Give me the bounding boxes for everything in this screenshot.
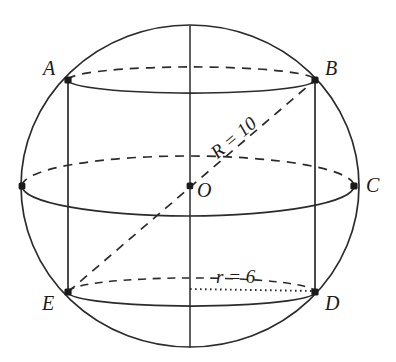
equator-back-arc bbox=[22, 156, 354, 186]
vertex-dot-O bbox=[187, 183, 194, 190]
top-circle-back-arc bbox=[68, 67, 315, 80]
vertex-dot-B bbox=[311, 76, 318, 83]
vertex-dot-C bbox=[350, 182, 357, 189]
bottom-circle-front-arc bbox=[68, 292, 315, 306]
measure-label-radius-r: r = 6 bbox=[216, 267, 255, 286]
vertex-dot-D bbox=[311, 288, 318, 295]
vertex-label-C: C bbox=[366, 175, 379, 195]
top-circle-front-arc bbox=[68, 80, 315, 93]
segment-bottom-radius bbox=[190, 289, 314, 291]
vertex-dot-A bbox=[64, 76, 71, 83]
vertex-label-D: D bbox=[325, 293, 339, 313]
vertex-label-E: E bbox=[42, 293, 54, 313]
vertex-label-B: B bbox=[325, 58, 337, 78]
vertex-dot-west bbox=[19, 183, 26, 190]
equator-front-arc bbox=[22, 186, 354, 216]
vertex-label-A: A bbox=[43, 58, 55, 78]
vertex-dot-E bbox=[64, 288, 71, 295]
vertex-label-O: O bbox=[197, 180, 211, 200]
geometry-figure: A B C D E O R = 10 r = 6 bbox=[0, 0, 396, 362]
